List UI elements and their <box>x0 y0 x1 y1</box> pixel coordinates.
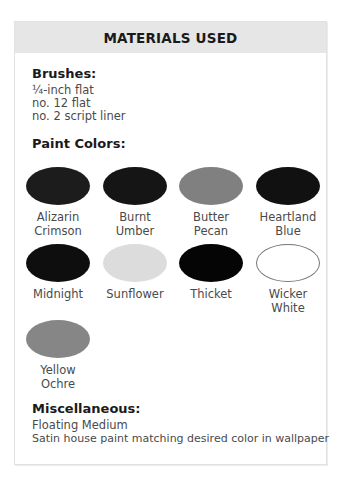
swatch-butter-pecan: ButterPecan <box>172 167 250 238</box>
swatch-alizarin-crimson: AlizarinCrimson <box>19 167 97 238</box>
swatch-label: Sunflower <box>96 287 174 301</box>
color-swatch <box>26 244 90 282</box>
swatch-sunflower: Sunflower <box>96 244 174 301</box>
brushes-heading: Brushes: <box>32 66 96 81</box>
miscellaneous-heading: Miscellaneous: <box>32 401 141 416</box>
brush-item: ¼-inch flat <box>32 83 94 97</box>
swatch-thicket: Thicket <box>172 244 250 301</box>
color-swatch <box>103 244 167 282</box>
color-swatch <box>103 167 167 205</box>
panel-header: MATERIALS USED <box>15 22 326 53</box>
swatch-label: BurntUmber <box>96 210 174 238</box>
misc-item: Floating Medium <box>32 418 128 432</box>
swatch-midnight: Midnight <box>19 244 97 301</box>
swatch-wicker-white: WickerWhite <box>249 244 327 315</box>
brush-item: no. 2 script liner <box>32 109 126 123</box>
swatch-label: Thicket <box>172 287 250 301</box>
brush-item: no. 12 flat <box>32 96 91 110</box>
swatch-label: WickerWhite <box>249 287 327 315</box>
color-swatch <box>256 244 320 282</box>
swatch-label: YellowOchre <box>19 363 97 391</box>
color-swatch <box>26 167 90 205</box>
color-swatch <box>179 167 243 205</box>
swatch-burnt-umber: BurntUmber <box>96 167 174 238</box>
swatch-yellow-ochre: YellowOchre <box>19 320 97 391</box>
color-swatch <box>179 244 243 282</box>
swatch-heartland-blue: HeartlandBlue <box>249 167 327 238</box>
panel-title: MATERIALS USED <box>103 30 237 46</box>
color-swatch <box>26 320 90 358</box>
misc-item: Satin house paint matching desired color… <box>32 432 329 445</box>
swatch-label: AlizarinCrimson <box>19 210 97 238</box>
swatch-label: Midnight <box>19 287 97 301</box>
materials-panel: MATERIALS USED Brushes: ¼-inch flat no. … <box>14 21 327 465</box>
swatch-label: ButterPecan <box>172 210 250 238</box>
paint-colors-heading: Paint Colors: <box>32 136 126 151</box>
swatch-label: HeartlandBlue <box>249 210 327 238</box>
color-swatch <box>256 167 320 205</box>
